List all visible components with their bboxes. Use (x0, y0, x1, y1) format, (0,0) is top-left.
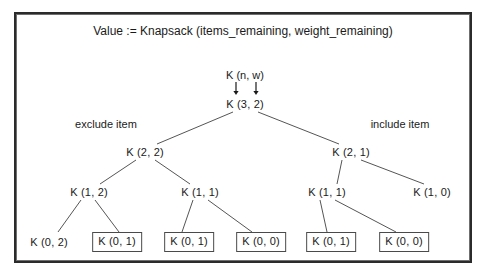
tree-edge (155, 160, 190, 184)
tree-node-boxed: K (0, 0) (236, 232, 286, 252)
tree-node: K (2, 2) (126, 147, 164, 158)
tree-edge (58, 200, 81, 232)
tree-edge (320, 200, 327, 232)
tree-node: K (0, 2) (30, 237, 68, 248)
include-item-label: include item (371, 118, 430, 130)
tree-node-boxed: K (0, 1) (306, 232, 356, 252)
exclude-item-label: exclude item (75, 118, 137, 130)
tree-edge (208, 200, 252, 232)
tree-node: K (2, 1) (332, 147, 370, 158)
tree-edge (361, 160, 424, 184)
tree-edge (337, 160, 342, 184)
n-arrow-head (233, 91, 238, 95)
tree-edge (100, 160, 136, 184)
page-title: Value := Knapsack (items_remaining, weig… (93, 24, 393, 38)
tree-edge (335, 200, 396, 232)
knapsack-recursion-tree-figure: Value := Knapsack (items_remaining, weig… (0, 0, 487, 277)
tree-node-boxed: K (0, 1) (92, 232, 142, 252)
tree-edge (258, 112, 339, 144)
tree-edge (157, 112, 233, 144)
tree-node: K (3, 2) (226, 99, 264, 110)
tree-node: K (1, 2) (70, 187, 108, 198)
tree-edge (182, 200, 193, 232)
tree-node: K (1, 0) (413, 187, 451, 198)
tree-edge (95, 200, 119, 232)
tree-node-boxed: K (0, 1) (164, 232, 214, 252)
parameter-label: K (n, w) (226, 69, 264, 81)
tree-node: K (1, 1) (308, 187, 346, 198)
tree-node: K (1, 1) (181, 187, 219, 198)
w-arrow-head (253, 91, 258, 95)
tree-node-boxed: K (0, 0) (379, 232, 429, 252)
